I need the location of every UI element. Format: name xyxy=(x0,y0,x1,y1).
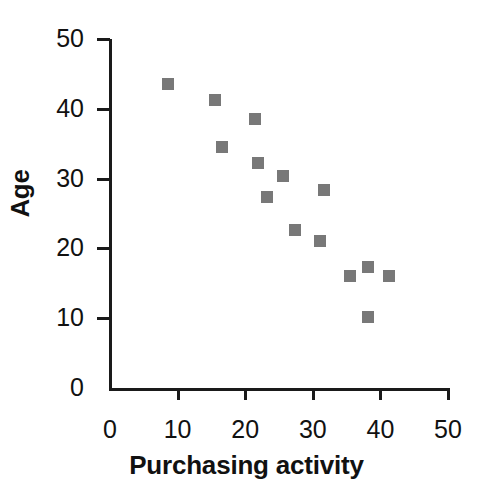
y-axis-tick-label: 40 xyxy=(40,96,84,121)
data-point xyxy=(209,94,221,106)
y-axis-tick-label: 20 xyxy=(40,235,84,260)
data-point xyxy=(216,141,228,153)
x-axis-line xyxy=(109,388,449,391)
x-axis-tick-label: 50 xyxy=(426,417,470,442)
y-axis-tick-label: 50 xyxy=(40,26,84,51)
x-axis-tick-label: 0 xyxy=(88,417,132,442)
x-axis-tick xyxy=(447,388,450,400)
x-axis-tick xyxy=(379,388,382,400)
y-axis-tick-label: 10 xyxy=(40,305,84,330)
x-axis-tick-label: 20 xyxy=(223,417,267,442)
y-axis-line xyxy=(109,39,112,391)
data-point xyxy=(261,191,273,203)
y-axis-tick xyxy=(97,247,110,250)
data-point xyxy=(277,170,289,182)
data-point xyxy=(252,157,264,169)
data-point xyxy=(318,184,330,196)
y-axis-tick xyxy=(97,108,110,111)
x-axis-tick-label: 10 xyxy=(156,417,200,442)
data-point xyxy=(289,224,301,236)
scatter-chart: Age Purchasing activity 01020304050 0102… xyxy=(0,0,493,488)
data-point xyxy=(249,113,261,125)
data-point xyxy=(362,311,374,323)
data-point xyxy=(383,270,395,282)
x-axis-tick xyxy=(177,388,180,400)
y-axis-tick-label: 0 xyxy=(40,375,84,400)
data-point xyxy=(344,270,356,282)
y-axis-tick xyxy=(97,38,110,41)
x-axis-tick xyxy=(244,388,247,400)
data-point xyxy=(162,78,174,90)
data-point xyxy=(362,261,374,273)
y-axis-tick xyxy=(97,317,110,320)
x-axis-tick-label: 40 xyxy=(358,417,402,442)
y-axis-title: Age xyxy=(5,154,36,234)
x-axis-tick xyxy=(312,388,315,400)
y-axis-tick-label: 30 xyxy=(40,166,84,191)
x-axis-title: Purchasing activity xyxy=(0,450,493,481)
data-point xyxy=(314,235,326,247)
x-axis-tick-label: 30 xyxy=(291,417,335,442)
y-axis-tick xyxy=(97,178,110,181)
